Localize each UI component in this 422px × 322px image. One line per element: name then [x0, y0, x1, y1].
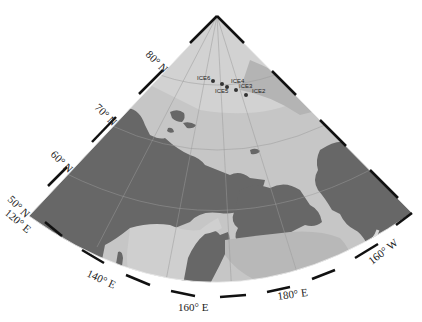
station-dot-ice2 — [244, 93, 248, 97]
station-label-ice2: ICE2 — [252, 88, 266, 94]
lon-label-160e: 160° E — [178, 301, 209, 313]
station-label-ice6: ICE6 — [197, 75, 211, 81]
station-label-ice3: ICE3 — [239, 83, 253, 89]
lon-label-160w: 160° W — [366, 236, 401, 267]
station-dot-ice4 — [234, 88, 238, 92]
map-figure: 80° N 70° N 60° N 50° N 120° E 140° E 16… — [0, 0, 422, 322]
station-label-ice5: ICE5 — [215, 88, 229, 94]
station-dot-ice6 — [211, 79, 215, 83]
lon-label-140e: 140° E — [85, 267, 118, 291]
station-dot-ice5a — [220, 82, 224, 86]
